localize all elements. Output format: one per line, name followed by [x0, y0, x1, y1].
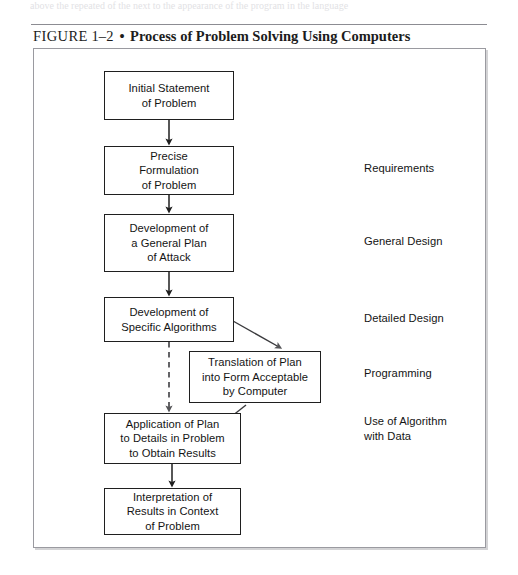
- caption-figure-number: 1–2: [91, 28, 113, 44]
- figure-frame: Initial Statement of Problem Precise For…: [33, 48, 486, 548]
- flowchart: Initial Statement of Problem Precise For…: [34, 49, 487, 549]
- flowchart-connectors: [34, 49, 487, 549]
- node-initial-statement[interactable]: Initial Statement of Problem: [104, 71, 234, 120]
- node-specific-algorithms[interactable]: Development of Specific Algorithms: [104, 297, 234, 342]
- caption-bullet-icon: •: [117, 28, 126, 44]
- node-general-plan[interactable]: Development of a General Plan of Attack: [104, 214, 234, 272]
- connector-algorithms-to-translation: [233, 321, 279, 347]
- node-precise-formulation[interactable]: Precise Formulation of Problem: [104, 146, 234, 195]
- caption-title: Process of Problem Solving Using Compute…: [130, 28, 410, 44]
- node-translation[interactable]: Translation of Plan into Form Acceptable…: [189, 351, 321, 403]
- node-application[interactable]: Application of Plan to Details in Proble…: [104, 413, 241, 464]
- caption-divider: [31, 24, 487, 25]
- stage-label-detailed-design: Detailed Design: [364, 311, 444, 326]
- page-bleed-text: above the repeated of the next to the ap…: [30, 0, 490, 11]
- stage-label-general-design: General Design: [364, 234, 442, 249]
- caption-figure-word: FIGURE: [33, 28, 88, 44]
- node-interpretation[interactable]: Interpretation of Results in Context of …: [104, 488, 241, 535]
- stage-label-requirements: Requirements: [364, 161, 434, 176]
- figure-caption: FIGURE 1–2 • Process of Problem Solving …: [33, 27, 410, 45]
- stage-label-use-of-algorithm: Use of Algorithm with Data: [364, 414, 447, 444]
- stage-label-programming: Programming: [364, 366, 432, 381]
